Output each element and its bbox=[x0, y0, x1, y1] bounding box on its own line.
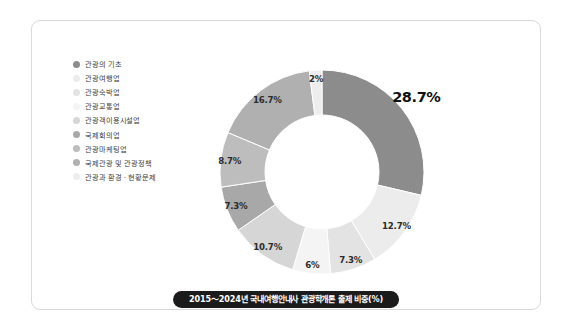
legend-item[interactable]: 관광여행업 bbox=[73, 71, 203, 85]
slice-value-label: 7.3% bbox=[339, 255, 362, 265]
legend-swatch-icon bbox=[73, 173, 80, 180]
legend-item-label: 관광여행업 bbox=[85, 73, 120, 83]
legend-item-label: 국제회의업 bbox=[85, 130, 120, 140]
slice-value-label: 28.7% bbox=[392, 89, 440, 105]
legend-swatch-icon bbox=[73, 89, 80, 96]
legend-item[interactable]: 관광교통업 bbox=[73, 99, 203, 113]
slice-value-label: 2% bbox=[309, 74, 323, 84]
chart-legend: 관광의 기초관광여행업관광숙박업관광교통업관광객이용시설업국제회의업관광마케팅업… bbox=[73, 57, 203, 184]
slice-value-label: 10.7% bbox=[253, 242, 282, 252]
legend-item-label: 관광마케팅업 bbox=[85, 144, 126, 154]
legend-item[interactable]: 관광과 환경 · 현황문제 bbox=[73, 170, 203, 184]
legend-swatch-icon bbox=[73, 117, 80, 124]
legend-item-label: 관광숙박업 bbox=[85, 87, 120, 97]
legend-swatch-icon bbox=[73, 145, 80, 152]
chart-panel: 관광의 기초관광여행업관광숙박업관광교통업관광객이용시설업국제회의업관광마케팅업… bbox=[31, 20, 541, 310]
donut-chart: 28.7%12.7%7.3%6%10.7%7.3%8.7%16.7%2% bbox=[219, 69, 425, 275]
slice-value-label: 8.7% bbox=[218, 156, 241, 166]
legend-item[interactable]: 관광숙박업 bbox=[73, 85, 203, 99]
legend-swatch-icon bbox=[73, 159, 80, 166]
legend-item-label: 국제관광 및 관광정책 bbox=[85, 158, 151, 168]
legend-swatch-icon bbox=[73, 75, 80, 82]
legend-item[interactable]: 관광의 기초 bbox=[73, 57, 203, 71]
slice-value-label: 12.7% bbox=[382, 221, 411, 231]
donut-slice[interactable] bbox=[228, 71, 315, 150]
legend-item[interactable]: 국제관광 및 관광정책 bbox=[73, 156, 203, 170]
legend-item[interactable]: 국제회의업 bbox=[73, 127, 203, 141]
legend-item-label: 관광객이용시설업 bbox=[85, 115, 140, 125]
chart-caption: 2015～2024년 국내여행안내사 관광학개론 출제 비중(%) bbox=[173, 291, 399, 308]
slice-value-label: 16.7% bbox=[253, 95, 282, 105]
legend-item-label: 관광의 기초 bbox=[85, 59, 122, 69]
legend-swatch-icon bbox=[73, 131, 80, 138]
legend-item-label: 관광교통업 bbox=[85, 101, 120, 111]
chart-figure: 관광의 기초관광여행업관광숙박업관광교통업관광객이용시설업국제회의업관광마케팅업… bbox=[0, 0, 573, 327]
slice-value-label: 7.3% bbox=[224, 201, 247, 211]
slice-value-label: 6% bbox=[305, 260, 319, 270]
legend-swatch-icon bbox=[73, 61, 80, 68]
legend-item-label: 관광과 환경 · 현황문제 bbox=[85, 172, 156, 182]
legend-item[interactable]: 관광마케팅업 bbox=[73, 142, 203, 156]
legend-item[interactable]: 관광객이용시설업 bbox=[73, 113, 203, 127]
legend-swatch-icon bbox=[73, 103, 80, 110]
